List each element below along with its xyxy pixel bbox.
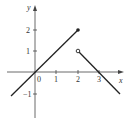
y-axis-arrow-icon	[33, 5, 37, 11]
y-axis-label: y	[26, 3, 31, 12]
y-tick-label-2: 2	[26, 26, 30, 35]
origin-label: 0	[37, 75, 41, 84]
y-tick-label-1: 1	[26, 47, 30, 56]
segment-2	[79, 52, 120, 94]
x-tick-label-2: 2	[76, 75, 80, 84]
segment-1	[11, 30, 78, 96]
x-axis-label: x	[118, 76, 123, 85]
filled-endpoint-dot	[76, 28, 80, 32]
open-endpoint-dot	[76, 49, 80, 53]
y-tick-label-neg1: −1	[23, 90, 32, 99]
function-graph: 0 1 2 3 x 2 1 −1 y	[0, 0, 125, 125]
x-axis-arrow-icon	[118, 70, 124, 74]
x-tick-label-3: 3	[97, 75, 101, 84]
x-tick-label-1: 1	[54, 75, 58, 84]
